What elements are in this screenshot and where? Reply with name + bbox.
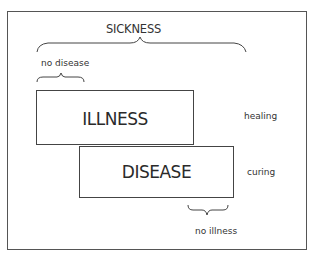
illness-label: ILLNESS: [82, 109, 148, 129]
no-illness-label: no illness: [195, 226, 237, 236]
sickness-label: SICKNESS: [106, 22, 161, 36]
no-disease-label: no disease: [41, 58, 89, 68]
healing-label: healing: [244, 111, 277, 121]
disease-box: DISEASE: [79, 146, 234, 198]
curing-label: curing: [247, 167, 275, 177]
illness-box: ILLNESS: [36, 90, 194, 145]
disease-label: DISEASE: [122, 162, 191, 182]
